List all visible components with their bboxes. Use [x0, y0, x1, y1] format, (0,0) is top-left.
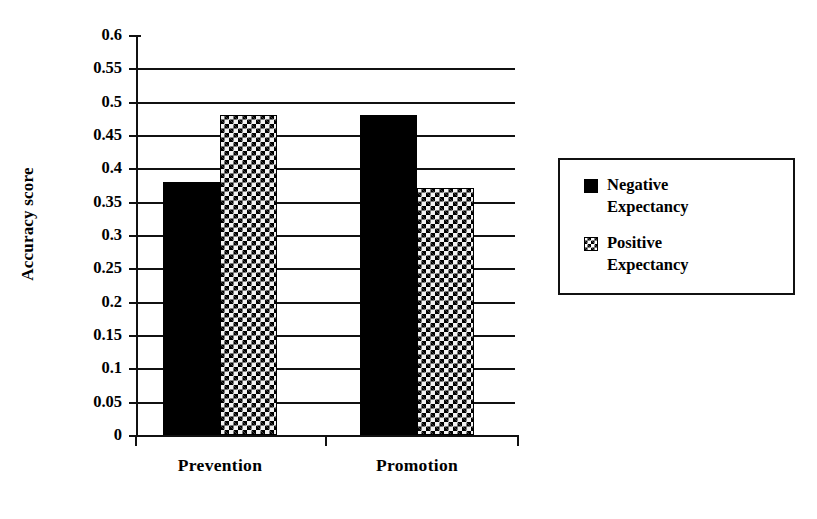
y-axis-tick-label: 0.45 — [93, 125, 122, 145]
bar-promotion-positive-expectancy — [417, 188, 474, 435]
y-axis-tick-label: 0.35 — [93, 192, 122, 212]
bar-chart-figure: Accuracy score 0.60.550.50.450.40.350.30… — [0, 0, 817, 519]
x-axis-right-tick — [517, 435, 519, 446]
y-axis-tick-label: 0.15 — [93, 325, 122, 345]
gridline — [136, 168, 515, 170]
gridline — [136, 68, 515, 70]
solid-square-icon — [584, 179, 598, 193]
y-axis-tick-label: 0.6 — [101, 25, 122, 45]
gridline — [136, 102, 515, 104]
y-axis-tick-label: 0.4 — [101, 158, 122, 178]
x-category-label-prevention: Prevention — [178, 455, 262, 476]
bar-promotion-negative-expectancy — [360, 115, 417, 435]
y-axis-tick-label: 0.05 — [93, 392, 122, 412]
legend-item-negative-expectancy: NegativeExpectancy — [584, 174, 689, 219]
y-axis-tick-label: 0.5 — [101, 92, 122, 112]
legend-item-negative-label: NegativeExpectancy — [607, 174, 689, 219]
y-axis-tick-label: 0.25 — [93, 258, 122, 278]
y-axis-tick-label: 0.1 — [101, 358, 122, 378]
y-axis-tick-label: 0.55 — [93, 58, 122, 78]
y-axis-tick-label: 0.2 — [101, 292, 122, 312]
y-axis-tick — [129, 35, 141, 37]
bar-prevention-negative-expectancy — [163, 182, 220, 435]
gridline — [136, 435, 515, 437]
legend-item-positive-label: PositiveExpectancy — [607, 232, 689, 277]
checkered-square-icon — [584, 237, 598, 251]
y-axis-title: Accuracy score — [18, 114, 38, 334]
legend-item-positive-expectancy: PositiveExpectancy — [584, 232, 689, 277]
x-category-label-promotion: Promotion — [376, 455, 458, 476]
plot-area: 0.60.550.50.450.40.350.30.250.20.150.10.… — [136, 35, 515, 435]
legend-box: NegativeExpectancy PositiveExpectancy — [558, 158, 795, 295]
bar-prevention-positive-expectancy — [220, 115, 277, 435]
gridline — [136, 135, 515, 137]
y-axis-tick-label: 0 — [114, 425, 122, 445]
y-axis-tick-label: 0.3 — [101, 225, 122, 245]
